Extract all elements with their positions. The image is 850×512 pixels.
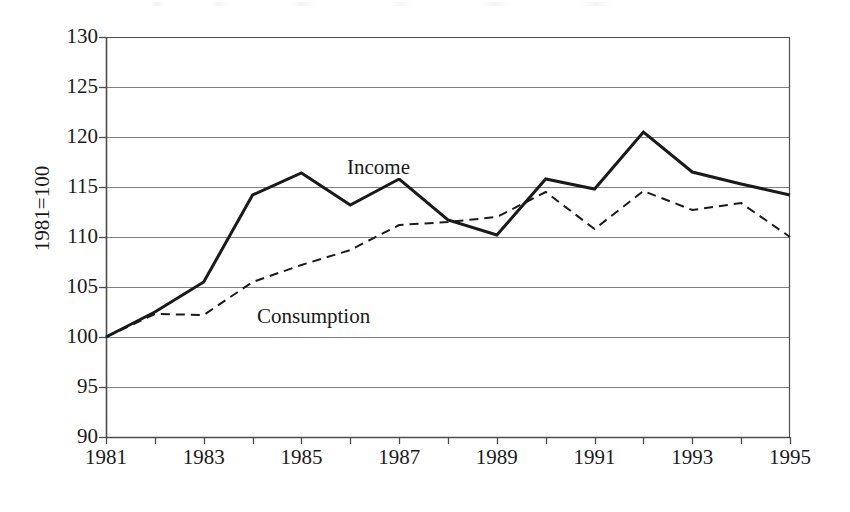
- series-label-income: Income: [345, 157, 412, 178]
- y-tick-label: 90: [42, 426, 98, 447]
- line-chart-plot: [0, 0, 850, 512]
- y-tick-label: 130: [42, 26, 98, 47]
- series-line-consumption: [106, 191, 790, 337]
- x-tick-label: 1989: [457, 447, 537, 468]
- x-tick-label: 1987: [359, 447, 439, 468]
- y-tick-label: 95: [42, 376, 98, 397]
- y-tick-label: 100: [42, 326, 98, 347]
- y-tick-label: 110: [42, 226, 98, 247]
- x-tick-label: 1995: [750, 447, 830, 468]
- x-tick-label: 1991: [555, 447, 635, 468]
- x-tick-label: 1985: [261, 447, 341, 468]
- gridlines: [106, 38, 790, 438]
- y-tick-label: 115: [42, 176, 98, 197]
- y-tick-label: 120: [42, 126, 98, 147]
- chart-figure: 1981=100 1301251201151101051009590 Incom…: [0, 0, 850, 512]
- y-tick-label: 105: [42, 276, 98, 297]
- series-line-income: [106, 132, 790, 337]
- x-axis-tick-labels: 19811983198519871989199119931995: [0, 447, 850, 477]
- y-axis-tick-marks: [99, 38, 106, 438]
- y-tick-label: 125: [42, 76, 98, 97]
- x-tick-label: 1981: [66, 447, 146, 468]
- x-tick-label: 1993: [652, 447, 732, 468]
- y-axis-tick-labels: 1301251201151101051009590: [38, 0, 98, 512]
- series-label-consumption: Consumption: [255, 306, 372, 327]
- x-tick-label: 1983: [164, 447, 244, 468]
- series-layer: [106, 132, 790, 337]
